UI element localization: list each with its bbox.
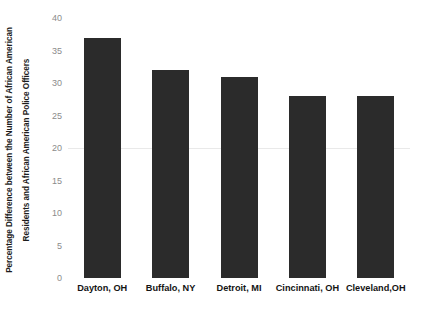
bar-chart: Percentage Difference between the Number… [0,0,424,314]
bar-slot [289,18,326,278]
x-axis-label: Cleveland,OH [332,284,420,293]
y-axis-tick-label: 15 [36,176,62,185]
bar [289,96,326,278]
y-axis-title-line-2: Residents and African American Police Of… [23,59,31,242]
y-axis-tick-label: 0 [36,274,62,283]
y-axis-ticks: 0510152025303540 [34,18,62,278]
bar-slot [221,18,258,278]
x-axis-labels: Dayton, OHBuffalo, NYDetroit, MICincinna… [68,284,410,304]
bar-slot [84,18,121,278]
bar [84,38,121,279]
y-axis-tick-label: 10 [36,209,62,218]
y-axis-title-line-1: Percentage Difference between the Number… [6,27,14,273]
y-axis-tick-label: 30 [36,79,62,88]
bar [152,70,189,278]
bar [357,96,394,278]
y-axis-tick-label: 35 [36,46,62,55]
y-axis-tick-label: 25 [36,111,62,120]
bar [221,77,258,279]
bar-slot [357,18,394,278]
y-axis-tick-label: 5 [36,241,62,250]
y-axis-tick-label: 20 [36,144,62,153]
bar-series [68,18,410,278]
y-axis-tick-label: 40 [36,14,62,23]
bar-slot [152,18,189,278]
